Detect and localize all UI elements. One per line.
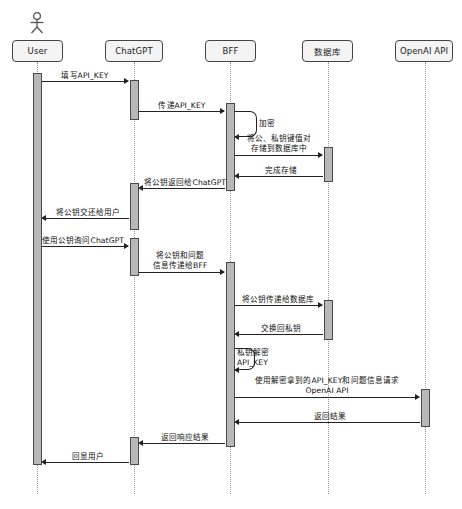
message-line-5 [239,176,323,177]
lifeline-chatgpt [134,62,135,494]
message-line-4 [235,155,322,156]
message-line-8 [42,246,128,247]
message-label-request-openai: 使用解密拿到的API_KEY和问题信息请求 OpenAI API [239,376,415,395]
message-label-decrypt-api-key: 私钥解密 API_KEY [237,348,307,367]
message-label-fill-api-key: 填写API_KEY [54,71,116,81]
message-label-store-complete: 完成存储 [251,166,311,176]
message-line-10 [235,305,322,306]
message-label-echo-to-user: 回显用户 [58,452,118,462]
message-line-14 [239,422,420,423]
activation-chatgpt-3 [130,238,139,276]
message-label-encrypt: 加密 [259,119,299,129]
message-label-decrypt-api-key-line1: 私钥解密 [237,348,269,357]
activation-user [33,73,42,465]
activation-openai [421,389,430,427]
message-label-send-public-key-to-db: 将公钥传递给数据库 [237,295,319,305]
message-arrow-11 [234,331,239,337]
message-label-send-key-and-question-line1: 将公钥和问题 [156,251,205,260]
lifeline-db [328,62,329,494]
participant-database[interactable]: 数据库 [302,40,353,62]
message-label-store-keypair: 将公、私钥键值对 存储到数据库中 [231,134,327,153]
lifeline-openai [425,62,426,494]
message-arrow-13 [415,394,420,400]
activation-chatgpt-1 [130,80,139,120]
participant-database-label: 数据库 [314,45,341,57]
self-message-arrow-decrypt [234,367,239,373]
message-arrow-14 [234,419,239,425]
message-label-return-public-key-to-user: 将公钥交还给用户 [52,208,124,218]
message-label-store-keypair-line2: 存储到数据库中 [251,144,308,153]
message-line-2 [139,111,224,112]
caption-strip [72,500,402,509]
participant-chatgpt-label: ChatGPT [115,46,152,56]
message-label-ask-chatgpt-with-public-key: 使用公钥询问ChatGPT [39,236,127,246]
message-label-return-public-key-to-chatgpt: 将公钥返回给ChatGPT [143,178,227,188]
message-label-transmit-api-key: 传递API_KEY [151,101,213,111]
participant-openai-api-label: OpenAI API [400,46,448,56]
message-arrow-15 [138,440,143,446]
message-line-13 [235,397,419,398]
message-label-send-key-and-question-to-bff: 将公钥和问题 信息传递给BFF [139,251,221,270]
message-label-send-key-and-question-line2: 信息传递给BFF [153,261,208,270]
participant-openai-api[interactable]: OpenAI API [395,40,453,62]
message-label-request-openai-line1: 使用解密拿到的API_KEY和问题信息请求 [255,376,399,385]
participant-user-label: User [28,46,48,56]
message-label-request-openai-line2: OpenAI API [305,386,348,395]
message-arrow-2 [220,108,225,114]
message-line-1 [42,81,128,82]
message-label-return-response-result: 返回响应结果 [150,433,220,443]
participant-chatgpt[interactable]: ChatGPT [105,40,163,62]
participant-user[interactable]: User [12,40,63,62]
message-label-return-result: 返回结果 [300,412,360,422]
actor-stick-figure-icon [26,11,48,39]
message-label-store-keypair-line1: 将公、私钥键值对 [247,134,312,143]
message-line-9 [139,272,224,273]
activation-database-2 [324,300,333,340]
message-label-exchange-private-key: 交换回私钥 [247,324,315,334]
sequence-diagram-canvas: User ChatGPT BFF 数据库 OpenAI API 填写API_KE… [0,0,462,509]
message-arrow-16 [41,459,46,465]
message-line-15 [143,443,225,444]
participant-bff[interactable]: BFF [205,40,256,62]
message-label-decrypt-api-key-line2: API_KEY [237,358,268,367]
message-line-16 [46,462,129,463]
message-line-6 [143,188,225,189]
message-arrow-1 [124,78,129,84]
message-line-7 [46,218,129,219]
message-arrow-5 [234,173,239,179]
participant-bff-label: BFF [223,46,239,56]
message-arrow-7 [41,215,46,221]
message-line-11 [239,334,323,335]
